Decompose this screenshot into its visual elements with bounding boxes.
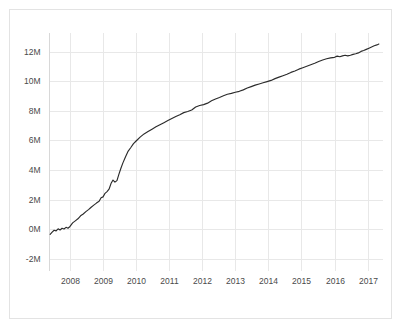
y-tick-label-2M: 2M <box>29 195 41 205</box>
y-tick-label-4M: 4M <box>29 165 41 175</box>
x-axis-tick-labels: 2008200920102011201220132014201520162017 <box>61 276 378 286</box>
line-chart-svg: 12M10M8M6M4M2M0M-2M 20082009201020112012… <box>0 0 401 328</box>
horizontal-gridlines <box>49 33 383 271</box>
x-tick-label-2013: 2013 <box>226 276 245 286</box>
y-tick-label-12M: 12M <box>24 47 41 57</box>
x-tick-label-2014: 2014 <box>259 276 278 286</box>
x-tick-label-2012: 2012 <box>193 276 212 286</box>
x-tick-label-2011: 2011 <box>160 276 179 286</box>
series-line-cumulative-total <box>50 44 379 234</box>
plot-area-wrapper: 12M10M8M6M4M2M0M-2M 20082009201020112012… <box>0 0 401 328</box>
y-tick-label-0M: 0M <box>29 224 41 234</box>
x-tick-label-2008: 2008 <box>61 276 80 286</box>
y-tick-label-6M: 6M <box>29 135 41 145</box>
y-tick-label-10M: 10M <box>24 76 41 86</box>
y-tick-label-8M: 8M <box>29 106 41 116</box>
x-tick-label-2010: 2010 <box>127 276 146 286</box>
y-tick-label--2M: -2M <box>26 254 41 264</box>
x-tick-label-2017: 2017 <box>359 276 378 286</box>
vertical-gridlines <box>71 33 369 271</box>
chart-figure: 12M10M8M6M4M2M0M-2M 20082009201020112012… <box>0 0 401 328</box>
y-axis-tick-labels: 12M10M8M6M4M2M0M-2M <box>24 47 41 264</box>
x-tick-label-2015: 2015 <box>292 276 311 286</box>
x-tick-label-2009: 2009 <box>94 276 113 286</box>
x-tick-label-2016: 2016 <box>326 276 345 286</box>
